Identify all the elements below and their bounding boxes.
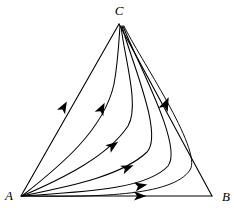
- arrow-on-trajectory-t5: [134, 180, 148, 191]
- vertex-label-b: B: [222, 189, 230, 204]
- arrow-on-trajectory-t3: [105, 138, 121, 153]
- trajectory-t2: [22, 26, 120, 196]
- trajectory-t3: [22, 26, 132, 196]
- vertex-label-a: A: [4, 188, 13, 203]
- phase-portrait-canvas: A B C: [0, 0, 234, 214]
- phase-portrait-figure: A B C: [0, 0, 234, 214]
- vertex-label-c: C: [115, 3, 124, 18]
